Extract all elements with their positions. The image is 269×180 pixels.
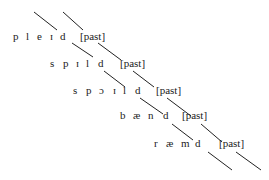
association-line bbox=[236, 152, 261, 170]
segment: m bbox=[181, 137, 190, 149]
past-feature: [past] bbox=[219, 137, 244, 149]
association-line bbox=[72, 43, 93, 57]
row-5: r æ m d [past] bbox=[154, 137, 244, 149]
segment: d bbox=[163, 109, 169, 121]
row-4: b æ n d [past] bbox=[120, 109, 207, 121]
past-feature: [past] bbox=[120, 57, 145, 69]
row-1: p l e ɪ d [past] bbox=[13, 30, 105, 42]
segment: l bbox=[86, 57, 89, 69]
segment: l bbox=[26, 30, 29, 42]
segment: ɔ bbox=[99, 84, 104, 96]
association-diagram: p l e ɪ d [past] s p ɪ l d [past] s p ɔ … bbox=[0, 0, 269, 180]
past-feature: [past] bbox=[182, 109, 207, 121]
association-line bbox=[34, 12, 57, 30]
segment: p bbox=[63, 57, 69, 69]
segment: s bbox=[50, 57, 54, 69]
segment: ɪ bbox=[50, 30, 53, 42]
segment: r bbox=[154, 137, 158, 149]
segment: d bbox=[98, 57, 104, 69]
segment: s bbox=[73, 84, 77, 96]
segment: p bbox=[86, 84, 92, 96]
segment: d bbox=[60, 30, 66, 42]
segment: d bbox=[195, 137, 201, 149]
segment: e bbox=[37, 30, 42, 42]
row-3: s p ɔ ɪ l d [past] bbox=[73, 84, 181, 96]
segment: æ bbox=[133, 109, 140, 121]
past-feature: [past] bbox=[80, 30, 105, 42]
association-line bbox=[208, 152, 232, 170]
segment: ɪ bbox=[113, 84, 116, 96]
segment: p bbox=[13, 30, 19, 42]
row-2: s p ɪ l d [past] bbox=[50, 57, 145, 69]
past-feature: [past] bbox=[156, 84, 181, 96]
segment: æ bbox=[166, 137, 173, 149]
segment: b bbox=[120, 109, 126, 121]
association-line bbox=[63, 12, 83, 30]
segment: n bbox=[148, 109, 154, 121]
segment: l bbox=[123, 84, 126, 96]
segment: ɪ bbox=[76, 57, 79, 69]
segment: d bbox=[135, 84, 141, 96]
